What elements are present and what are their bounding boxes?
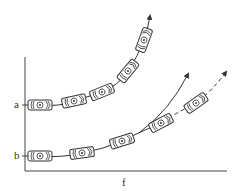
car-icon xyxy=(148,113,174,133)
x-axis-label: f xyxy=(122,177,126,188)
car-icon xyxy=(89,83,115,101)
y-label-b: b xyxy=(14,150,20,161)
car-icon xyxy=(69,146,94,159)
y-label-a: a xyxy=(14,99,19,110)
motion-diagram xyxy=(0,0,241,191)
car-icon xyxy=(116,59,139,84)
car-icon xyxy=(183,92,208,114)
car-icon xyxy=(109,133,135,150)
car-icon xyxy=(135,27,153,53)
car-icon xyxy=(28,100,52,110)
car-icon xyxy=(28,151,52,161)
car-icon xyxy=(61,94,87,109)
